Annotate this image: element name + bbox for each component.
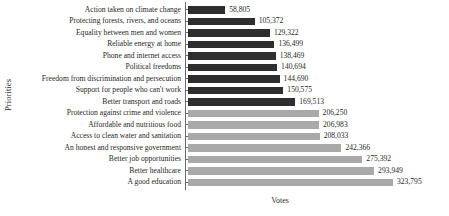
bar-container: 169,513 xyxy=(188,96,442,108)
category-label: An honest and responsive government xyxy=(18,144,185,152)
bar[interactable] xyxy=(188,52,276,60)
bar-container: 206,250 xyxy=(188,108,442,120)
bar[interactable] xyxy=(188,6,225,14)
bar-container: 242,366 xyxy=(188,142,442,154)
bar-row: Action taken on climate change58,805 xyxy=(18,4,442,16)
bar-row: Support for people who can't work150,575 xyxy=(18,85,442,97)
bar-row: Better job opportunities275,392 xyxy=(18,154,442,166)
bar-chart: Priorities Action taken on climate chang… xyxy=(0,0,449,216)
category-label: Freedom from discrimination and persecut… xyxy=(18,75,185,83)
bar-container: 144,690 xyxy=(188,73,442,85)
category-label: Better healthcare xyxy=(18,167,185,175)
bar-value-label: 293,949 xyxy=(378,167,403,175)
bar-row: Equality between men and women129,322 xyxy=(18,27,442,39)
bar-value-label: 150,575 xyxy=(287,86,312,94)
bar-value-label: 208,033 xyxy=(324,132,349,140)
bar-value-label: 105,372 xyxy=(259,17,284,25)
bar-rows: Action taken on climate change58,805Prot… xyxy=(18,4,442,188)
bar-row: An honest and responsive government242,3… xyxy=(18,142,442,154)
bar-row: Better transport and roads169,513 xyxy=(18,96,442,108)
bar-row: Affordable and nutritious food206,983 xyxy=(18,119,442,131)
bar[interactable] xyxy=(188,121,319,129)
bar[interactable] xyxy=(188,87,283,95)
bar-row: Phone and internet access138,469 xyxy=(18,50,442,62)
bar[interactable] xyxy=(188,133,320,141)
bar-container: 138,469 xyxy=(188,50,442,62)
bar[interactable] xyxy=(188,98,295,106)
category-label: Affordable and nutritious food xyxy=(18,121,185,129)
bar[interactable] xyxy=(188,29,270,37)
category-label: Reliable energy at home xyxy=(18,40,185,48)
category-label: Protecting forests, rivers, and oceans xyxy=(18,17,185,25)
bar-value-label: 58,805 xyxy=(229,6,250,14)
category-label: Equality between men and women xyxy=(18,29,185,37)
bar-container: 206,983 xyxy=(188,119,442,131)
category-label: A good education xyxy=(18,178,185,186)
y-axis-title: Priorities xyxy=(0,0,16,190)
bar-value-label: 129,322 xyxy=(274,29,299,37)
category-label: Phone and internet access xyxy=(18,52,185,60)
bar-container: 58,805 xyxy=(188,4,442,16)
bar[interactable] xyxy=(188,18,255,26)
bar-row: Protection against crime and violence206… xyxy=(18,108,442,120)
bar-value-label: 140,694 xyxy=(281,63,306,71)
category-label: Action taken on climate change xyxy=(18,6,185,14)
bar-value-label: 138,469 xyxy=(280,52,305,60)
bar-row: Political freedoms140,694 xyxy=(18,62,442,74)
x-axis-title: Votes xyxy=(18,196,442,205)
bar-value-label: 323,795 xyxy=(397,178,422,186)
bar-container: 136,499 xyxy=(188,39,442,51)
bar-value-label: 206,250 xyxy=(323,109,348,117)
bar-container: 275,392 xyxy=(188,154,442,166)
bar[interactable] xyxy=(188,156,362,164)
category-label: Protection against crime and violence xyxy=(18,109,185,117)
category-label: Support for people who can't work xyxy=(18,86,185,94)
category-label: Better transport and roads xyxy=(18,98,185,106)
bar-row: Reliable energy at home136,499 xyxy=(18,39,442,51)
bar-container: 150,575 xyxy=(188,85,442,97)
bar-row: Protecting forests, rivers, and oceans10… xyxy=(18,16,442,28)
bar-container: 293,949 xyxy=(188,165,442,177)
bar[interactable] xyxy=(188,179,393,187)
category-label: Political freedoms xyxy=(18,63,185,71)
bar-container: 140,694 xyxy=(188,62,442,74)
bar[interactable] xyxy=(188,110,319,118)
bar-value-label: 242,366 xyxy=(345,144,370,152)
bar[interactable] xyxy=(188,64,277,72)
bar-container: 208,033 xyxy=(188,131,442,143)
bar-row: Better healthcare293,949 xyxy=(18,165,442,177)
bar-container: 105,372 xyxy=(188,16,442,28)
bar[interactable] xyxy=(188,144,341,152)
category-label: Access to clean water and sanitation xyxy=(18,132,185,140)
bar[interactable] xyxy=(188,75,280,83)
category-label: Better job opportunities xyxy=(18,155,185,163)
bar-row: Access to clean water and sanitation208,… xyxy=(18,131,442,143)
bar-container: 129,322 xyxy=(188,27,442,39)
bar-value-label: 144,690 xyxy=(284,75,309,83)
bar[interactable] xyxy=(188,41,274,49)
bar-value-label: 169,513 xyxy=(299,98,324,106)
bar-value-label: 206,983 xyxy=(323,121,348,129)
bar-container: 323,795 xyxy=(188,177,442,189)
y-axis-title-label: Priorities xyxy=(3,79,13,111)
plot-area: Action taken on climate change58,805Prot… xyxy=(18,4,442,188)
bar-row: Freedom from discrimination and persecut… xyxy=(18,73,442,85)
bar-value-label: 136,499 xyxy=(278,40,303,48)
bar[interactable] xyxy=(188,167,374,175)
bar-row: A good education323,795 xyxy=(18,177,442,189)
x-axis-title-label: Votes xyxy=(171,196,289,205)
bar-value-label: 275,392 xyxy=(366,155,391,163)
